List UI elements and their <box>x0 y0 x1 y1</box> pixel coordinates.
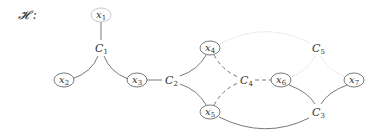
node-c4: C4 <box>240 74 253 88</box>
node-c1: C1 <box>95 42 108 56</box>
hypergraph-diagram: 𝓗 : x1 <box>0 0 382 138</box>
node-c2: C2 <box>165 74 178 88</box>
edge-x6-c3 <box>289 85 315 104</box>
node-x1: x1 <box>91 8 111 22</box>
edge-x5-c3 <box>219 117 309 129</box>
edge-x7-c3 <box>321 85 347 104</box>
edge-c5-x6 <box>291 56 315 77</box>
node-x3: x3 <box>127 73 147 87</box>
edge-c1-x2 <box>72 56 98 79</box>
edge-x4-c4 <box>214 55 238 77</box>
node-c3: C3 <box>312 106 325 120</box>
edge-c1-x3 <box>104 56 128 79</box>
edge-c2-x4 <box>180 55 206 76</box>
node-x6: x6 <box>271 73 291 87</box>
node-c5: C5 <box>312 42 325 56</box>
node-x2: x2 <box>54 73 74 87</box>
edge-c2-x5 <box>180 84 206 105</box>
edge-x5-c4 <box>214 83 238 105</box>
edge-x4-c5 <box>220 32 310 44</box>
node-x5: x5 <box>200 105 220 119</box>
edge-c5-x7 <box>321 56 345 77</box>
node-x7: x7 <box>344 73 364 87</box>
variable-nodes: x1 x2 x3 x4 x5 x6 x7 <box>54 8 364 119</box>
graph-title: 𝓗 : <box>18 8 37 22</box>
node-x4: x4 <box>200 41 220 55</box>
